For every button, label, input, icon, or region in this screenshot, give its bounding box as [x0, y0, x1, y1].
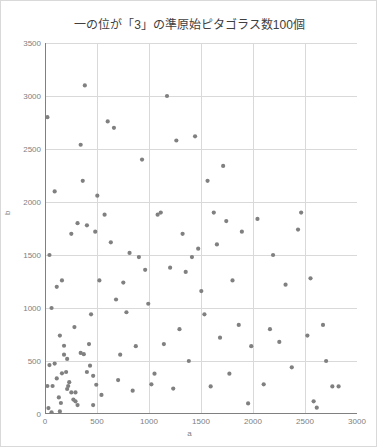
scatter-point — [230, 278, 234, 282]
x-tick-label: 3000 — [348, 417, 366, 426]
scatter-point — [224, 219, 228, 223]
scatter-point — [75, 221, 79, 225]
scatter-plot-svg — [45, 43, 357, 414]
scatter-point — [146, 302, 150, 306]
scatter-point — [205, 179, 209, 183]
scatter-point — [85, 370, 89, 374]
scatter-point — [58, 409, 62, 413]
scatter-point — [162, 342, 166, 346]
y-tick-label: 1500 — [23, 251, 41, 260]
scatter-point — [62, 344, 66, 348]
scatter-point — [59, 401, 63, 405]
scatter-point — [49, 306, 53, 310]
plot-area — [45, 43, 357, 414]
scatter-point — [99, 393, 103, 397]
scatter-point — [47, 253, 51, 257]
scatter-point — [109, 240, 113, 244]
y-tick-label: 2500 — [23, 145, 41, 154]
scatter-point — [114, 297, 118, 301]
scatter-point — [324, 359, 328, 363]
scatter-point — [193, 134, 197, 138]
scatter-point — [165, 94, 169, 98]
x-tick-label: 2000 — [244, 417, 262, 426]
scatter-point — [312, 399, 316, 403]
scatter-point — [249, 344, 253, 348]
scatter-point — [55, 285, 59, 289]
x-axis-label: a — [1, 429, 377, 438]
x-tick-label: 1500 — [192, 417, 210, 426]
scatter-point — [82, 352, 86, 356]
scatter-point — [69, 232, 73, 236]
scatter-point — [196, 247, 200, 251]
scatter-point — [277, 340, 281, 344]
scatter-point — [174, 138, 178, 142]
scatter-point — [127, 251, 131, 255]
scatter-point — [106, 119, 110, 123]
scatter-point — [330, 384, 334, 388]
scatter-point — [202, 312, 206, 316]
scatter-point — [72, 325, 76, 329]
scatter-point — [121, 280, 125, 284]
scatter-point — [215, 242, 219, 246]
x-tick-label: 500 — [90, 417, 103, 426]
scatter-point — [60, 278, 64, 282]
scatter-point — [53, 189, 57, 193]
scatter-point — [66, 384, 70, 388]
scatter-point — [199, 289, 203, 293]
scatter-point — [89, 312, 93, 316]
y-tick-label: 2000 — [23, 198, 41, 207]
scatter-point — [271, 253, 275, 257]
scatter-point — [240, 230, 244, 234]
y-tick-label: 500 — [28, 357, 41, 366]
scatter-point — [218, 336, 222, 340]
scatter-point — [73, 390, 77, 394]
scatter-point — [53, 361, 57, 365]
scatter-point — [55, 376, 59, 380]
scatter-point — [45, 384, 49, 388]
scatter-point — [95, 194, 99, 198]
scatter-point — [262, 382, 266, 386]
scatter-point — [296, 227, 300, 231]
scatter-point — [79, 143, 83, 147]
scatter-point — [73, 399, 77, 403]
y-tick-label: 0 — [37, 410, 41, 419]
scatter-point — [290, 365, 294, 369]
scatter-point — [93, 230, 97, 234]
scatter-point — [88, 364, 92, 368]
scatter-point — [75, 403, 79, 407]
scatter-point — [237, 323, 241, 327]
scatter-point — [60, 371, 64, 375]
y-axis-label: b — [3, 211, 12, 215]
scatter-point — [94, 383, 98, 387]
scatter-point — [134, 344, 138, 348]
scatter-point — [137, 255, 141, 259]
y-axis-ticks: 0500100015002000250030003500 — [1, 43, 41, 414]
scatter-point — [255, 217, 259, 221]
scatter-point — [152, 372, 156, 376]
x-tick-label: 2500 — [296, 417, 314, 426]
scatter-point — [131, 389, 135, 393]
scatter-point — [58, 333, 62, 337]
plot-wrapper — [45, 43, 357, 414]
scatter-point — [116, 378, 120, 382]
scatter-point — [102, 213, 106, 217]
scatter-point — [221, 164, 225, 168]
scatter-point — [97, 278, 101, 282]
scatter-point — [65, 357, 69, 361]
scatter-point — [315, 406, 319, 410]
scatter-point — [190, 255, 194, 259]
scatter-point — [67, 380, 71, 384]
scatter-point — [212, 211, 216, 215]
y-tick-label: 3000 — [23, 92, 41, 101]
scatter-point — [209, 384, 213, 388]
scatter-point — [83, 83, 87, 87]
scatter-point — [91, 403, 95, 407]
scatter-point — [168, 266, 172, 270]
scatter-point — [246, 401, 250, 405]
scatter-point — [283, 283, 287, 287]
scatter-point — [140, 158, 144, 162]
scatter-point — [45, 115, 49, 119]
scatter-point — [69, 390, 73, 394]
scatter-point — [62, 353, 66, 357]
scatter-point — [50, 384, 54, 388]
